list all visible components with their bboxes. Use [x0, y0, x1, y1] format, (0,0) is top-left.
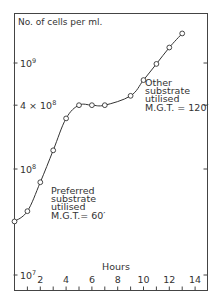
data-point — [128, 93, 133, 98]
data-point — [102, 103, 107, 108]
data-point — [51, 148, 56, 153]
x-axis-ticks: 2468101214 — [27, 274, 201, 291]
x-axis-label: Hours — [102, 261, 130, 272]
growth-curve-chart: 1071084 × 108109 2468101214 No. of cells… — [0, 0, 219, 303]
data-point — [180, 31, 185, 36]
x-tick-label: 4 — [63, 274, 69, 285]
x-tick-label: 6 — [89, 274, 95, 285]
data-point — [38, 180, 43, 185]
x-tick-label: 14 — [189, 274, 201, 285]
data-point — [167, 45, 172, 50]
y-tick-label: 109 — [20, 57, 36, 69]
x-tick-label: 8 — [115, 274, 121, 285]
data-point — [77, 103, 82, 108]
data-point — [64, 116, 69, 121]
x-tick-label: 12 — [163, 274, 175, 285]
annotation-other-substrate: Other substrate utilised M.G.T. = 120′ — [145, 77, 209, 113]
x-tick-label: 2 — [37, 274, 43, 285]
data-point — [12, 219, 17, 224]
y-axis-label: No. of cells per ml. — [18, 17, 102, 27]
data-point — [25, 209, 30, 214]
annotation-line: M.G.T.= 60′ — [51, 210, 106, 221]
annotation-preferred-substrate: Preferred substrate utilised M.G.T.= 60′ — [51, 185, 106, 221]
data-point — [90, 103, 95, 108]
plot-frame — [15, 14, 208, 291]
data-point — [154, 62, 159, 67]
x-tick-label: 10 — [137, 274, 149, 285]
y-tick-label: 107 — [20, 269, 36, 281]
y-tick-label: 108 — [20, 163, 36, 175]
annotation-line: M.G.T. = 120′ — [145, 102, 209, 113]
data-point-markers — [12, 31, 185, 224]
y-tick-label: 4 × 108 — [20, 99, 56, 111]
